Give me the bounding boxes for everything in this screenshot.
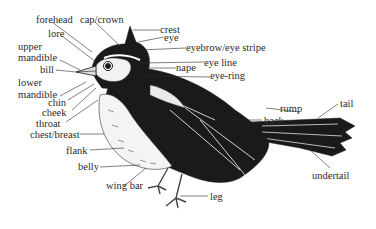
label-forehead: forehead [36, 14, 73, 25]
label-wing-bar: wing bar [106, 180, 143, 191]
label-tail: tail [340, 98, 353, 109]
label-throat: throat [36, 118, 61, 129]
label-flank: flank [66, 145, 88, 156]
label-upper-mandible: mandible [18, 52, 57, 63]
label-undertail: undertail [312, 170, 349, 181]
label-chest-breast: chest/breast [30, 129, 80, 140]
label-cap-crown: cap/crown [80, 14, 124, 25]
label-eyebrow-eye-stripe: eyebrow/eye stripe [186, 42, 266, 53]
label-cheek: cheek [42, 107, 66, 118]
label-back: back [264, 115, 284, 126]
label-lore: lore [48, 28, 64, 39]
label-upper: upper [18, 41, 42, 52]
label-belly: belly [78, 161, 99, 172]
label-lower: lower [18, 77, 42, 88]
label-eye-ring: eye-ring [210, 70, 245, 81]
label-rump: rump [280, 103, 302, 114]
label-leg: leg [210, 191, 223, 202]
bird-anatomy-diagram: forehead cap/crown crest eye lore eyebro… [0, 0, 376, 229]
label-eye-line: eye line [204, 57, 237, 68]
label-eye: eye [164, 32, 179, 43]
label-bill: bill [40, 64, 54, 75]
label-nape: nape [176, 62, 196, 73]
